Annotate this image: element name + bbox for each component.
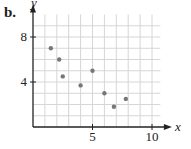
- y-tick-label: 8: [21, 29, 28, 44]
- data-point: [124, 97, 128, 101]
- y-tick-label: 4: [21, 74, 28, 89]
- data-point: [90, 69, 94, 73]
- data-point: [112, 105, 116, 109]
- x-tick-label: 5: [89, 129, 96, 144]
- data-point: [102, 91, 106, 95]
- y-axis-label: y: [29, 0, 37, 10]
- x-axis-label: x: [174, 119, 181, 134]
- data-point: [78, 83, 82, 87]
- data-point: [61, 74, 65, 78]
- x-axis-arrow-icon: [164, 124, 172, 130]
- data-point: [49, 46, 53, 50]
- data-point: [57, 57, 61, 61]
- scatter-chart: 51048xy: [0, 0, 191, 149]
- x-tick-label: 10: [146, 129, 159, 144]
